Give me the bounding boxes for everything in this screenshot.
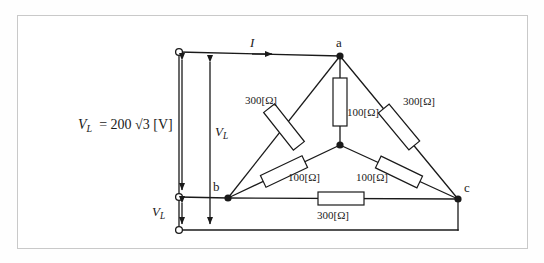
node-label-b: b — [213, 180, 220, 193]
resistor-label-100-right: 100[Ω] — [356, 172, 388, 183]
resistor-body-300-bottom — [318, 192, 364, 205]
resistor-body-100-center — [333, 78, 347, 126]
resistor-label-300-left: 300[Ω] — [245, 95, 277, 106]
resistor-label-300-right: 300[Ω] — [403, 96, 435, 107]
current-label-I: I — [250, 36, 254, 49]
node-dot-c — [454, 195, 461, 202]
terminal-circle-bottom — [176, 227, 183, 234]
measure-label-VL-main: VL — [215, 125, 228, 141]
node-dot-b — [224, 194, 231, 201]
resistor-label-100-left: 100[Ω] — [288, 172, 320, 183]
node-label-c: c — [464, 181, 470, 194]
feeder-wire-b — [179, 197, 228, 198]
resistor-body-300-left — [264, 104, 305, 150]
resistor-body-300-right — [378, 104, 419, 150]
resistor-label-300-bottom: 300[Ω] — [317, 210, 349, 221]
node-dot-neutral — [336, 141, 343, 148]
node-label-a: a — [336, 36, 342, 49]
node-dot-a — [336, 52, 343, 59]
figure-root: VL = 200 √3 [V] VL VL I a b c 300[Ω] 300… — [0, 0, 544, 263]
measure-label-VL-lower: VL — [152, 205, 165, 221]
terminal-circle-top — [176, 49, 183, 56]
terminal-circle-middle — [176, 194, 183, 201]
source-voltage-label: VL = 200 √3 [V] — [78, 118, 173, 134]
resistor-label-100-center: 100[Ω] — [347, 107, 379, 118]
